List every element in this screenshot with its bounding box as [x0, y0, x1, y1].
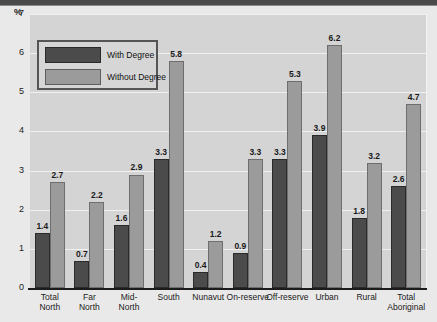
bar-value-label: 5.3 [282, 70, 308, 79]
x-tick-label: TotalAboriginal [375, 292, 437, 312]
bar-with-degree [391, 186, 406, 288]
bar-value-label: 3.3 [242, 148, 268, 157]
bar-without-degree [287, 81, 302, 288]
bar-with-degree [312, 135, 327, 288]
bar-value-label: 2.9 [124, 163, 150, 172]
bar-value-label: 1.2 [203, 230, 229, 239]
bar-without-degree [406, 104, 421, 288]
bar-with-degree [352, 218, 367, 288]
bar-value-label: 2.2 [84, 191, 110, 200]
bar-with-degree [193, 272, 208, 288]
bar-with-degree [35, 233, 50, 288]
bar-without-degree [89, 202, 104, 288]
bar-with-degree [233, 253, 248, 288]
bar-value-label: 4.7 [401, 93, 427, 102]
legend-swatch-with-degree [45, 47, 101, 63]
bar-without-degree [129, 175, 144, 289]
bar-value-label: 3.2 [361, 152, 387, 161]
bar-with-degree [272, 159, 287, 288]
bar-value-label: 6.2 [322, 34, 348, 43]
x-axis-tick-labels: TotalNorthFarNorthMid-NorthSouthNunavutO… [0, 292, 437, 320]
bar-with-degree [114, 225, 129, 288]
legend-label-without-degree: Without Degree [107, 72, 166, 82]
legend-swatch-without-degree [45, 69, 101, 85]
x-tick-label-line: North [98, 302, 160, 312]
bar-without-degree [208, 241, 223, 288]
bar-without-degree [327, 45, 342, 288]
chart-legend: With Degree Without Degree [37, 40, 158, 90]
bar-chart: % 01234567 1.42.70.72.21.62.93.35.80.41.… [0, 0, 437, 322]
x-axis-line [28, 288, 427, 290]
bar-without-degree [169, 61, 184, 288]
top-band-edge [0, 5, 437, 6]
x-tick-label-line: Aboriginal [375, 302, 437, 312]
legend-label-with-degree: With Degree [107, 50, 154, 60]
bar-with-degree [154, 159, 169, 288]
bar-without-degree [248, 159, 263, 288]
bar-without-degree [50, 182, 65, 288]
bar-value-label: 5.8 [163, 50, 189, 59]
bar-value-label: 2.7 [44, 171, 70, 180]
bar-with-degree [74, 261, 89, 288]
x-tick-label-line: Total [375, 292, 437, 302]
bar-without-degree [367, 163, 382, 288]
